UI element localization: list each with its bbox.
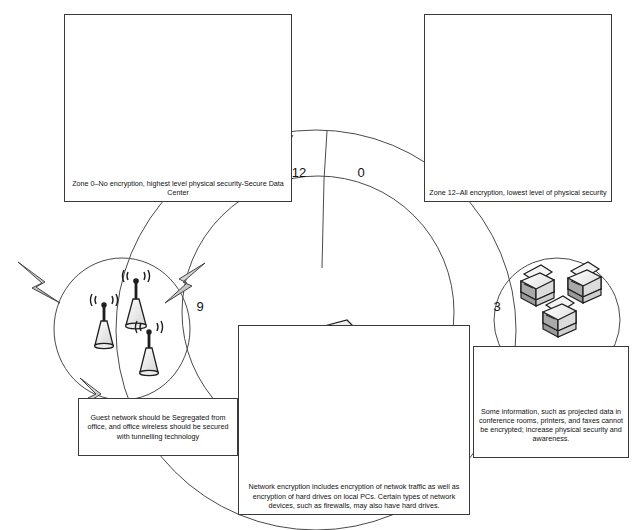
callout-guest-network[interactable]: Guest network should be Segregated from …: [78, 398, 238, 456]
lightning-bolt-icon: [165, 263, 205, 303]
callout-zone-12-caption: Zone 12–All encryption, lowest level of …: [425, 188, 611, 201]
callout-zone-0[interactable]: Zone 0–No encryption, highest level phys…: [64, 14, 292, 202]
printer-icon: [568, 262, 601, 303]
callout-network-encryption-caption: Network encryption includes encryption o…: [239, 482, 469, 514]
wireless-icon-group: [18, 262, 205, 414]
zone-number-3: 3: [488, 299, 506, 314]
callout-guest-network-caption: Guest network should be Segregated from …: [79, 413, 237, 441]
callout-projected-data[interactable]: Some information, such as projected data…: [473, 346, 629, 458]
callout-zone-0-caption: Zone 0–No encryption, highest level phys…: [65, 179, 291, 201]
lightning-bolt-icon: [18, 262, 60, 303]
callout-projected-data-caption: Some information, such as projected data…: [474, 407, 628, 444]
zone-number-0: 0: [352, 165, 370, 180]
wireless-access-point-icon: [91, 294, 118, 349]
wireless-access-point-icon: [123, 270, 150, 329]
zone-divider-line: [322, 131, 327, 268]
callout-network-encryption[interactable]: Network encryption includes encryption o…: [238, 325, 470, 515]
printer-icon: [543, 296, 576, 337]
printer-icon: [521, 265, 554, 306]
callout-zone-12[interactable]: Zone 12–All encryption, lowest level of …: [424, 14, 612, 202]
printer-icon-group: [521, 262, 601, 337]
zone-number-9: 9: [191, 299, 209, 314]
zone-number-12: 12: [288, 165, 310, 180]
diagram-canvas: Zone 0–No encryption, highest level phys…: [0, 0, 632, 530]
